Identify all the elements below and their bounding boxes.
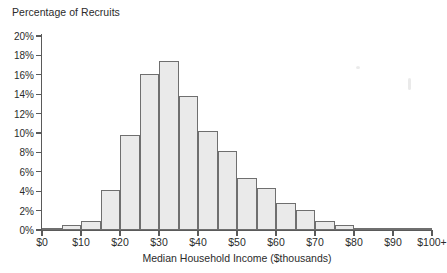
x-axis-tick-label: $50 (228, 236, 246, 248)
bar (218, 151, 238, 230)
y-axis-tick-label: 16% (0, 69, 34, 80)
bar (296, 210, 316, 230)
y-axis-tick-label: 2% (0, 205, 34, 216)
bar (393, 228, 413, 230)
bar (335, 225, 355, 230)
x-axis-tick-label: $0 (36, 236, 48, 248)
bar (198, 131, 218, 230)
x-axis-tick-label: $30 (150, 236, 168, 248)
y-axis-tick-label: 6% (0, 166, 34, 177)
histogram-chart: Percentage of Recruits 0%2%4%6%8%10%12%1… (0, 0, 447, 273)
x-axis-tick-label: $80 (345, 236, 363, 248)
bar-series (42, 36, 432, 230)
y-axis-tick-label: 8% (0, 147, 34, 158)
x-axis-tick-label: $20 (111, 236, 129, 248)
bar (354, 228, 374, 230)
x-axis-tick-label: $70 (306, 236, 324, 248)
bar (413, 228, 433, 230)
y-axis-tick-label: 14% (0, 89, 34, 100)
bar (315, 221, 335, 230)
x-axis-tick-label: $40 (189, 236, 207, 248)
y-axis-tick-label: 10% (0, 128, 34, 139)
y-axis-tick-label: 20% (0, 31, 34, 42)
bar (81, 221, 101, 230)
bar (101, 190, 121, 230)
bar (374, 228, 394, 230)
bar (179, 96, 199, 230)
bar (159, 61, 179, 230)
y-axis-tick-label: 18% (0, 50, 34, 61)
bar (276, 203, 296, 230)
scan-speckle-icon (408, 78, 411, 90)
bar (237, 178, 257, 230)
bar (42, 228, 62, 230)
bar (140, 74, 160, 230)
y-axis-tick-label: 12% (0, 108, 34, 119)
bar (62, 225, 82, 230)
x-axis-tick-label: $90 (384, 236, 402, 248)
x-axis-title: Median Household Income ($thousands) (42, 252, 432, 264)
bar (257, 188, 277, 230)
x-axis-tick-label: $100+ (417, 236, 447, 248)
y-axis-tick-label: 0% (0, 225, 34, 236)
bar (120, 135, 140, 230)
x-axis-tick-label: $10 (72, 236, 90, 248)
scan-speckle-icon (356, 66, 360, 69)
y-axis-title: Percentage of Recruits (12, 6, 120, 18)
x-axis-tick-label: $60 (267, 236, 285, 248)
y-axis-tick-label: 4% (0, 186, 34, 197)
